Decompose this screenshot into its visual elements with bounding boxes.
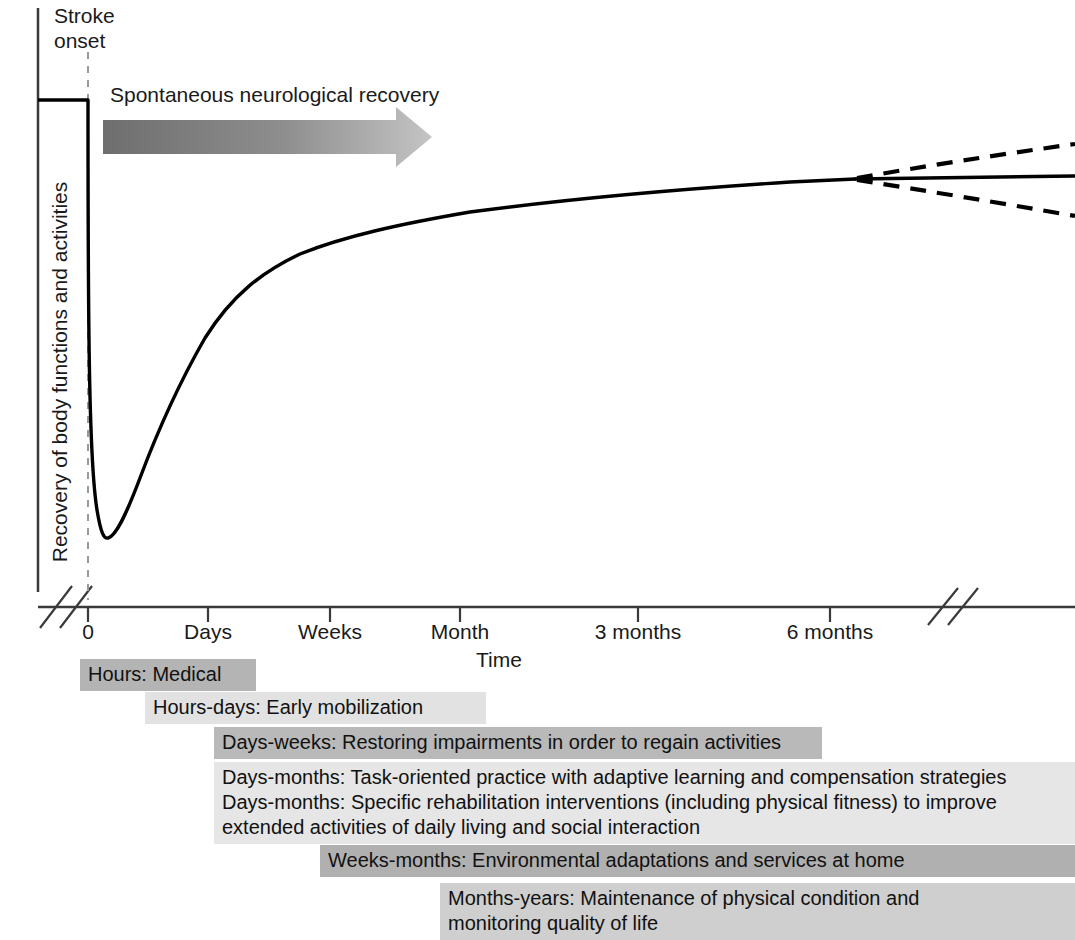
timeline-bar: Hours-days: Early mobilization: [145, 692, 486, 724]
spontaneous-recovery-arrow-icon: [103, 107, 432, 167]
recovery-curve-main: [88, 100, 855, 538]
x-tick-label: Weeks: [298, 620, 362, 644]
recovery-branch-declining: [857, 180, 1075, 216]
timeline-bar: Hours: Medical: [80, 659, 256, 691]
timeline-bar: Days-months: Task-oriented practice with…: [214, 762, 1075, 844]
x-tick-label: 3 months: [595, 620, 681, 644]
stroke-onset-label: Stroke onset: [54, 3, 115, 53]
timeline-bar: Months-years: Maintenance of physical co…: [440, 883, 1075, 940]
recovery-branch-stable: [855, 176, 1075, 179]
y-axis-title: Recovery of body functions and activitie…: [48, 112, 72, 632]
x-tick-label: 6 months: [787, 620, 873, 644]
timeline-bar: Days-weeks: Restoring impairments in ord…: [214, 727, 822, 759]
spontaneous-recovery-label: Spontaneous neurological recovery: [110, 82, 439, 107]
x-axis-title: Time: [476, 648, 522, 672]
timeline-bar: Weeks-months: Environmental adaptations …: [320, 845, 1075, 877]
x-tick-label: 0: [82, 620, 94, 644]
x-tick-label: Month: [431, 620, 489, 644]
x-tick-label: Days: [184, 620, 232, 644]
recovery-branch-improving: [857, 144, 1075, 178]
